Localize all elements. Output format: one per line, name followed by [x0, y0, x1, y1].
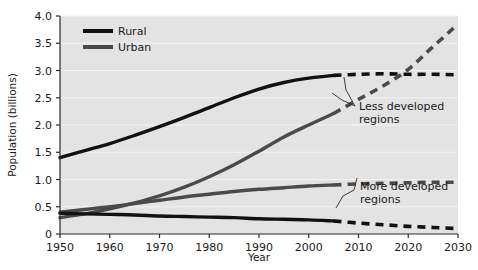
- y-tick-label: 3.5: [35, 37, 53, 50]
- y-tick-label: 2.0: [35, 119, 53, 132]
- series-line-projected: [334, 74, 458, 76]
- annotation-less-developed-line2: regions: [359, 113, 400, 126]
- legend-label-urban: Urban: [118, 41, 151, 54]
- y-axis-title: Population (billions): [6, 73, 18, 177]
- annotation-less-developed-line1: Less developed: [359, 100, 444, 113]
- x-axis-title: Year: [247, 251, 271, 263]
- y-tick-label: 0.5: [35, 201, 53, 214]
- x-tick-label: 2030: [444, 241, 472, 254]
- y-tick-label: 1.5: [35, 146, 53, 159]
- annotation-more-developed-line2: regions: [360, 193, 401, 206]
- y-tick-label: 1.0: [35, 174, 53, 187]
- x-tick-label: 2020: [394, 241, 422, 254]
- x-tick-label: 2010: [345, 241, 373, 254]
- x-tick-label: 1980: [195, 241, 223, 254]
- population-line-chart: 195019601970198019902000201020202030 00.…: [0, 0, 478, 270]
- x-tick-label: 1970: [146, 241, 174, 254]
- x-tick-label: 1950: [46, 241, 74, 254]
- x-tick-label: 2000: [295, 241, 323, 254]
- legend-label-rural: Rural: [118, 25, 146, 38]
- annotation-more-developed-line1: More developed: [360, 180, 448, 193]
- x-tick-label: 1960: [96, 241, 124, 254]
- y-tick-label: 2.5: [35, 92, 53, 105]
- y-tick-label: 3.0: [35, 65, 53, 78]
- y-tick-label: 0: [45, 228, 52, 241]
- y-tick-label: 4.0: [35, 10, 53, 23]
